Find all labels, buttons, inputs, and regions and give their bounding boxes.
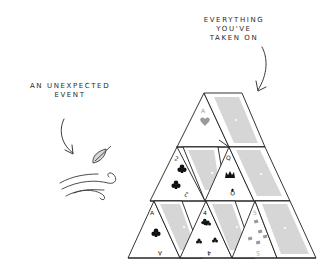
svg-text:5: 5 (253, 209, 257, 216)
card-row-2: 2 2 Q Q (150, 147, 290, 201)
wind-gust-icon (60, 173, 116, 200)
svg-text:5: 5 (256, 250, 260, 257)
card-row-1: A (177, 93, 265, 147)
svg-text:4: 4 (203, 209, 207, 216)
leaf-icon (93, 146, 111, 163)
house-of-cards-illustration: A 2 2 Q Q A (0, 0, 335, 276)
svg-text:Q: Q (226, 154, 231, 161)
arrow-down-icon (256, 47, 266, 91)
card-row-3: A A 4 4 5 5 (128, 201, 316, 258)
arrow-down-icon (61, 119, 73, 154)
svg-text:Q: Q (230, 190, 235, 197)
svg-text:4: 4 (207, 250, 211, 257)
